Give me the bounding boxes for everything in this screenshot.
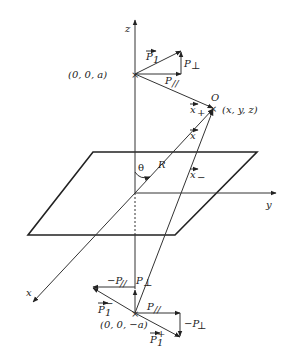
svg-text:P: P	[164, 75, 172, 86]
x-vector-label: x	[190, 130, 198, 141]
svg-text:⊥: ⊥	[143, 277, 152, 288]
svg-text://: //	[171, 78, 180, 89]
lower-image-label: (0, 0, −a)	[100, 319, 148, 330]
svg-text:P: P	[97, 304, 105, 315]
lower-p1-plus-label: P 1 +	[149, 328, 165, 348]
lower-p-perp-label: P ⊥	[135, 275, 152, 288]
svg-text:P: P	[183, 58, 191, 69]
upper-p1-label: P 1	[145, 51, 159, 65]
svg-text:P: P	[145, 51, 153, 62]
dipole-image-diagram: z y x θ R x + x x − × O (x, y, z) × (0, …	[0, 0, 291, 357]
lower-neg-p-perp-label: −P ⊥	[184, 318, 206, 331]
observer-coords: (x, y, z)	[222, 104, 258, 115]
lower-p1-minus-label: P 1 −	[97, 298, 113, 318]
y-axis-label: y	[265, 199, 272, 210]
svg-text:x: x	[190, 104, 196, 115]
observer-letter: O	[211, 92, 219, 103]
svg-text:⊥: ⊥	[197, 320, 206, 331]
svg-text:x: x	[190, 169, 196, 180]
upper-source-label: (0, 0, a)	[68, 69, 107, 80]
theta-label: θ	[138, 162, 144, 173]
x-axis-label: x	[26, 287, 32, 298]
svg-text:⊥: ⊥	[191, 60, 200, 71]
x-minus-label: x −	[190, 169, 205, 183]
r-label: R	[157, 159, 166, 170]
upper-p-perp-label: P ⊥	[183, 58, 200, 71]
observer-point-marker: ×	[209, 103, 217, 114]
svg-text:P: P	[146, 301, 154, 312]
upper-p-parallel-label: P //	[164, 75, 180, 89]
svg-text:P: P	[135, 275, 143, 286]
svg-text:1: 1	[153, 54, 159, 65]
x-plus-label: x +	[190, 104, 205, 118]
svg-text:+: +	[197, 107, 205, 118]
svg-text:P: P	[149, 334, 157, 345]
svg-text:x: x	[190, 130, 196, 141]
svg-text:−: −	[197, 172, 205, 183]
z-axis-label: z	[124, 23, 131, 34]
